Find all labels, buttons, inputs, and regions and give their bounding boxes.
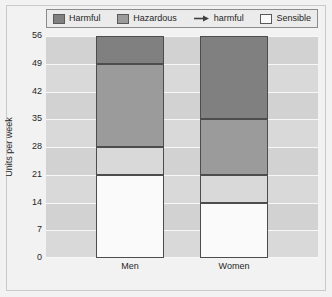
- legend-item-hazardous: Hazardous: [117, 14, 177, 24]
- y-tick-label: 56: [16, 31, 42, 40]
- y-tick-label: 21: [16, 170, 42, 179]
- x-tick-label: Men: [121, 262, 139, 271]
- bar-segment-hazardous: [96, 64, 164, 147]
- y-axis-title-text: Units per week: [4, 117, 14, 177]
- x-tick-label: Women: [219, 262, 250, 271]
- legend-label-sensible: Sensible: [276, 14, 311, 23]
- x-axis-ticks: MenWomen: [46, 262, 318, 276]
- plot-band: [46, 36, 318, 64]
- legend-label-harmful-arrow: harmful: [214, 14, 244, 23]
- gridline: [46, 119, 318, 120]
- y-tick-label: 14: [16, 198, 42, 207]
- bar-segment-harmful: [200, 36, 268, 119]
- bar-segment-harmful: [96, 36, 164, 64]
- y-axis-ticks: 0714212835424956: [14, 36, 42, 258]
- bar-men: [97, 36, 163, 258]
- gridline: [46, 36, 318, 37]
- gridline: [46, 175, 318, 176]
- chart-figure: Harmful Hazardous harmful Sensible Units…: [0, 0, 332, 297]
- gridline: [46, 64, 318, 65]
- chart-legend: Harmful Hazardous harmful Sensible: [46, 9, 318, 28]
- gridline: [46, 147, 318, 148]
- arrow-right-icon: [194, 14, 210, 23]
- gridline: [46, 257, 318, 258]
- gridline: [46, 203, 318, 204]
- y-tick-label: 7: [16, 225, 42, 234]
- legend-swatch-harmful: [53, 14, 65, 24]
- plot-area: [46, 36, 318, 258]
- legend-swatch-sensible: [260, 14, 272, 24]
- bar-segment-hazardous: [200, 119, 268, 175]
- y-tick-label: 0: [16, 253, 42, 262]
- plot-band: [46, 92, 318, 120]
- plot-band: [46, 203, 318, 231]
- legend-item-harmful-arrow: harmful: [194, 14, 244, 23]
- bar-women: [201, 36, 267, 258]
- gridline: [46, 230, 318, 231]
- bar-segment-sensible: [96, 175, 164, 258]
- legend-item-sensible: Sensible: [260, 14, 311, 24]
- y-tick-label: 35: [16, 114, 42, 123]
- legend-label-harmful: Harmful: [69, 14, 101, 23]
- legend-label-hazardous: Hazardous: [133, 14, 177, 23]
- y-tick-label: 49: [16, 59, 42, 68]
- gridline: [46, 92, 318, 93]
- y-tick-label: 42: [16, 87, 42, 96]
- legend-swatch-hazardous: [117, 14, 129, 24]
- bar-segment-harmful: [96, 147, 164, 175]
- bar-segment-sensible: [200, 203, 268, 259]
- plot-band: [46, 147, 318, 175]
- y-tick-label: 28: [16, 142, 42, 151]
- legend-item-harmful: Harmful: [53, 14, 101, 24]
- bar-segment-harmful: [200, 175, 268, 203]
